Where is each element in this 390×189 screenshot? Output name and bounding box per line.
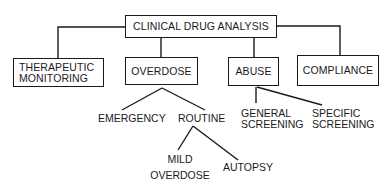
root-node-label: CLINICAL DRUG ANALYSIS — [133, 21, 269, 32]
specific-screening-label: SPECIFIC SCREENING — [312, 108, 374, 130]
abuse-box: ABUSE — [228, 57, 279, 86]
therapeutic-label-line2: MONITORING — [19, 73, 94, 84]
overdose-box: OVERDOSE — [125, 57, 198, 85]
edge-root-therapeutic — [58, 27, 125, 58]
compliance-label: COMPLIANCE — [303, 65, 373, 76]
edge-root-compliance — [277, 26, 340, 55]
therapeutic-label-line1: THERAPEUTIC — [19, 62, 94, 73]
edge-overdose-emergency — [122, 88, 162, 110]
root-node-box: CLINICAL DRUG ANALYSIS — [125, 15, 277, 38]
routine-label: ROUTINE — [178, 113, 225, 124]
general-screening-label: GENERAL SCREENING — [241, 108, 303, 130]
overdose-label: OVERDOSE — [131, 66, 191, 77]
compliance-box: COMPLIANCE — [297, 55, 379, 86]
abuse-label: ABUSE — [235, 66, 271, 77]
edge-overdose-routine — [162, 88, 205, 110]
autopsy-label: AUTOPSY — [223, 162, 273, 173]
edge-abuse-specific — [257, 87, 322, 105]
mild-overdose-label: MILD OVERDOSE — [150, 154, 210, 181]
therapeutic-monitoring-box: THERAPEUTIC MONITORING — [13, 58, 104, 87]
emergency-label: EMERGENCY — [98, 113, 166, 124]
edge-routine-mild — [178, 126, 193, 150]
